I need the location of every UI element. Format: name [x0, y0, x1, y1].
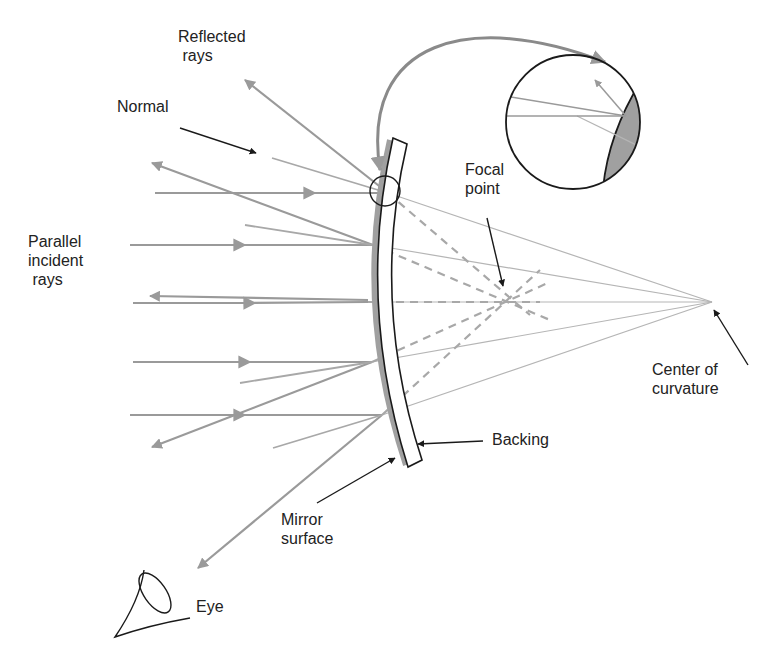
label-reflected-rays: Reflected rays	[178, 27, 246, 65]
label-parallel-incident-rays: Parallel incident rays	[28, 232, 83, 289]
eye-icon	[115, 568, 190, 637]
inset-connector-arrow	[378, 38, 605, 170]
label-backing: Backing	[492, 430, 549, 449]
reflected-rays	[150, 80, 388, 568]
label-eye: Eye	[196, 597, 224, 616]
label-center-of-curvature: Center of curvature	[652, 360, 719, 398]
label-pointers	[180, 128, 748, 503]
label-normal: Normal	[117, 97, 169, 116]
label-focal-point: Focal point	[465, 160, 504, 198]
label-mirror-surface: Mirror surface	[281, 510, 333, 548]
magnified-inset	[505, 55, 700, 190]
